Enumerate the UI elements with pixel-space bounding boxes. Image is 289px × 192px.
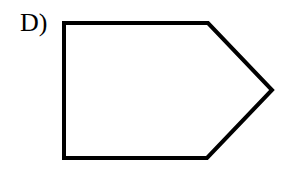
pentagon-shape-diagram (0, 0, 289, 192)
pentagon-shape (64, 23, 272, 158)
